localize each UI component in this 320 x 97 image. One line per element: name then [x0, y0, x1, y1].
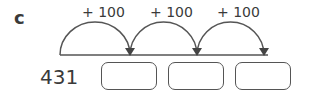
answer-box-1[interactable] [101, 62, 157, 90]
answer-box-2[interactable] [168, 62, 224, 90]
jump-arc-1 [60, 22, 130, 55]
answer-box-3[interactable] [235, 62, 291, 90]
start-value: 431 [40, 65, 78, 89]
jump-arc-2 [130, 22, 197, 55]
jump-arc-3 [197, 22, 264, 55]
